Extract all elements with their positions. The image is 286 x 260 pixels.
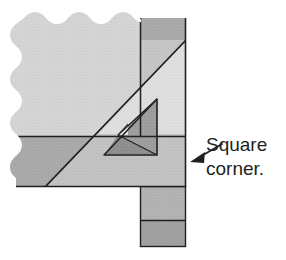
bottom-tab (140, 186, 186, 247)
arrow-head (190, 152, 205, 163)
annotation-line-2: corner. (206, 158, 264, 179)
bottom-tab-texture (140, 186, 186, 247)
figure-root: Square corner. (0, 0, 286, 260)
annotation-line-1: Square (206, 134, 267, 155)
square-corner-figure: Square corner. (0, 0, 286, 260)
